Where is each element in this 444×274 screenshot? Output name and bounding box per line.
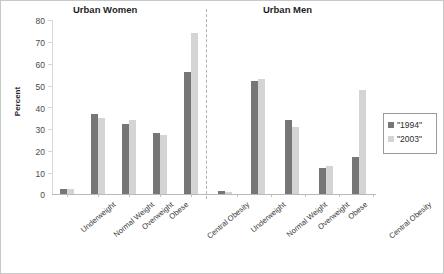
legend-swatch-icon — [388, 122, 394, 128]
legend-item-1994[interactable]: "1994" — [388, 120, 433, 130]
x-tick-mark — [129, 194, 130, 197]
bar-group-underweight — [54, 20, 80, 194]
x-label-women-underweight: Underweight — [79, 200, 117, 234]
bar-1994-normal-weight — [91, 114, 98, 195]
bar-2003-central-obesity — [191, 33, 198, 194]
y-tick-label-50: 50 — [23, 82, 45, 92]
bar-2003-normal-weight — [98, 118, 105, 194]
x-tick-mark — [191, 194, 192, 197]
y-tick-label-10: 10 — [23, 169, 45, 179]
y-tick-label-20: 20 — [23, 147, 45, 157]
y-tick-label-60: 60 — [23, 60, 45, 70]
y-axis-title: Percent — [13, 62, 22, 142]
panel-title-urban-women: Urban Women — [73, 4, 137, 15]
y-tick-label-30: 30 — [23, 125, 45, 135]
bar-1994-underweight — [218, 191, 225, 194]
bar-1994-normal-weight — [251, 81, 258, 194]
bar-1994-obese — [153, 133, 160, 194]
bar-1994-central-obesity — [352, 157, 359, 194]
x-label-women-central-obesity: Central Obesity — [205, 200, 251, 241]
x-tick-mark — [271, 194, 272, 197]
legend-label-2003: "2003" — [397, 134, 422, 144]
bar-group-normal-weight — [245, 20, 271, 194]
x-tick-mark — [237, 194, 238, 197]
x-tick-mark — [305, 194, 306, 197]
legend-label-1994: "1994" — [397, 120, 422, 130]
bar-group-overweight — [116, 20, 142, 194]
chart-legend: "1994" "2003" — [383, 113, 437, 154]
bar-group-central-obesity — [346, 20, 372, 194]
bar-1994-obese — [319, 168, 326, 194]
y-tick-label-40: 40 — [23, 104, 45, 114]
bar-group-central-obesity — [178, 20, 204, 194]
y-tick-label-80: 80 — [23, 16, 45, 26]
x-tick-mark — [98, 194, 99, 197]
x-tick-mark — [339, 194, 340, 197]
x-label-men-underweight: Underweight — [249, 200, 287, 234]
bar-1994-central-obesity — [184, 72, 191, 194]
y-tick-label-70: 70 — [23, 38, 45, 48]
x-tick-mark — [373, 194, 374, 197]
bar-group-obese — [313, 20, 339, 194]
plot-area — [52, 20, 376, 194]
bar-group-overweight — [279, 20, 305, 194]
x-tick-mark — [160, 194, 161, 197]
x-label-men-central-obesity: Central Obesity — [387, 200, 433, 241]
bar-1994-overweight — [122, 124, 129, 194]
y-tick-label-0: 0 — [23, 190, 45, 200]
bar-2003-underweight — [67, 189, 74, 194]
chart-figure: Percent 80 70 60 50 40 30 20 10 0 Urban … — [0, 0, 444, 274]
bar-2003-underweight — [225, 192, 232, 194]
bar-group-obese — [147, 20, 173, 194]
bar-panel-urban-men — [208, 20, 376, 194]
panel-title-urban-men: Urban Men — [263, 4, 312, 15]
x-axis-line — [52, 194, 376, 195]
bar-2003-obese — [160, 135, 167, 194]
bar-2003-overweight — [292, 127, 299, 194]
x-label-men-obese: Obese — [346, 200, 369, 221]
bar-group-normal-weight — [85, 20, 111, 194]
bar-2003-overweight — [129, 120, 136, 194]
bar-panel-urban-women — [52, 20, 206, 194]
bar-1994-overweight — [285, 120, 292, 194]
legend-swatch-icon — [388, 136, 394, 142]
bar-2003-normal-weight — [258, 79, 265, 194]
bar-2003-central-obesity — [359, 90, 366, 194]
legend-item-2003[interactable]: "2003" — [388, 134, 433, 144]
x-tick-mark — [67, 194, 68, 197]
bar-2003-obese — [326, 166, 333, 194]
bar-group-underweight — [212, 20, 238, 194]
